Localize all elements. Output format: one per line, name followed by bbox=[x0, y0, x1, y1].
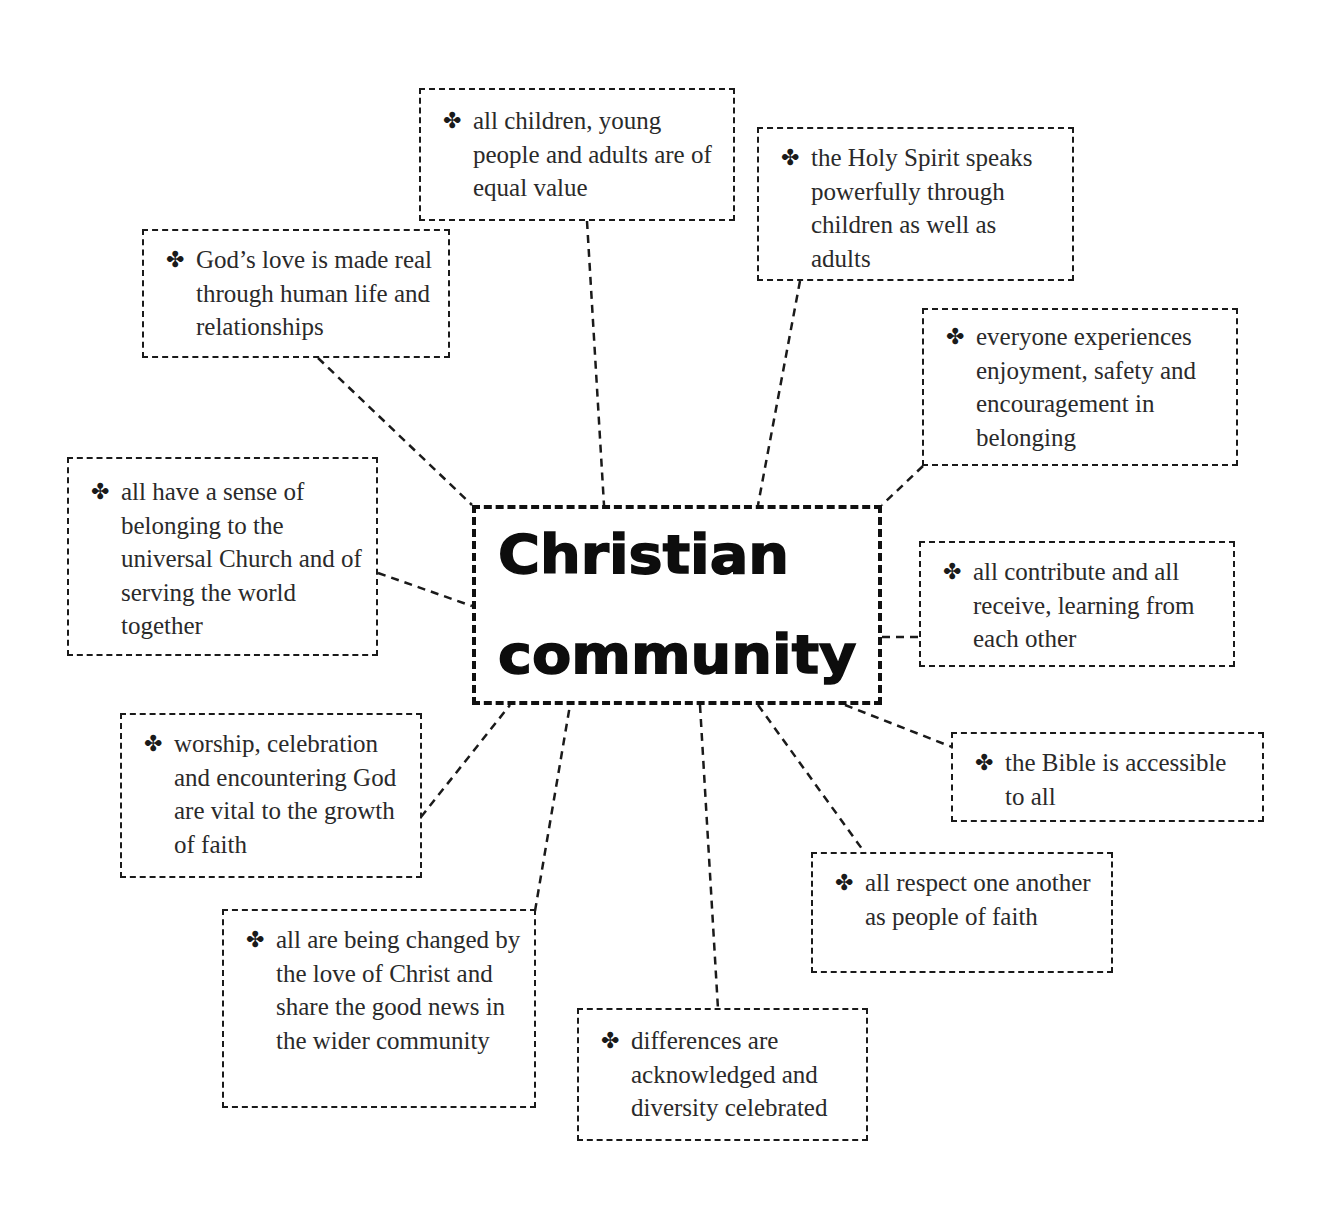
node-gods-love: ✤ God’s love is made real through human … bbox=[142, 229, 450, 358]
connector-bible bbox=[845, 705, 952, 747]
central-topic-line1: Christian bbox=[498, 505, 901, 605]
node-text: all contribute and all receive, learning… bbox=[973, 555, 1223, 656]
connector-equal-value bbox=[587, 221, 604, 505]
node-text: all children, young people and adults ar… bbox=[473, 104, 723, 205]
node-universal-church: ✤ all have a sense of belonging to the u… bbox=[67, 457, 378, 656]
clover-bullet-icon: ✤ bbox=[946, 320, 976, 353]
central-topic: Christian community bbox=[472, 505, 882, 705]
node-text: God’s love is made real through human li… bbox=[196, 243, 438, 344]
node-holy-spirit: ✤ the Holy Spirit speaks powerfully thro… bbox=[757, 127, 1074, 281]
clover-bullet-icon: ✤ bbox=[144, 727, 174, 760]
clover-bullet-icon: ✤ bbox=[975, 746, 1005, 779]
node-bible: ✤ the Bible is accessible to all bbox=[951, 732, 1264, 822]
node-text: differences are acknowledged and diversi… bbox=[631, 1024, 856, 1125]
connector-enjoyment bbox=[882, 466, 923, 505]
node-enjoyment: ✤ everyone experiences enjoyment, safety… bbox=[922, 308, 1238, 466]
connector-differences bbox=[700, 705, 718, 1009]
node-worship: ✤ worship, celebration and encountering … bbox=[120, 713, 422, 878]
node-text: worship, celebration and encountering Go… bbox=[174, 727, 410, 861]
clover-bullet-icon: ✤ bbox=[443, 104, 473, 137]
node-text: the Bible is accessible to all bbox=[1005, 746, 1252, 813]
mind-map-diagram: Christian community ✤ God’s love is made… bbox=[0, 0, 1330, 1210]
connector-worship bbox=[421, 705, 510, 817]
node-text: all respect one another as people of fai… bbox=[865, 866, 1101, 933]
clover-bullet-icon: ✤ bbox=[835, 866, 865, 899]
node-respect: ✤ all respect one another as people of f… bbox=[811, 852, 1113, 973]
node-changed: ✤ all are being changed by the love of C… bbox=[222, 909, 536, 1108]
node-text: the Holy Spirit speaks powerfully throug… bbox=[811, 141, 1062, 275]
node-text: everyone experiences enjoyment, safety a… bbox=[976, 320, 1226, 454]
node-differences: ✤ differences are acknowledged and diver… bbox=[577, 1008, 868, 1141]
node-text: all have a sense of belonging to the uni… bbox=[121, 475, 366, 643]
clover-bullet-icon: ✤ bbox=[246, 923, 276, 956]
node-text: all are being changed by the love of Chr… bbox=[276, 923, 524, 1057]
connector-universal-church bbox=[378, 573, 472, 606]
connector-holy-spirit bbox=[758, 281, 800, 505]
connector-changed bbox=[535, 705, 570, 911]
central-topic-line2: community bbox=[498, 605, 901, 705]
node-equal-value: ✤ all children, young people and adults … bbox=[419, 88, 735, 221]
clover-bullet-icon: ✤ bbox=[943, 555, 973, 588]
clover-bullet-icon: ✤ bbox=[166, 243, 196, 276]
clover-bullet-icon: ✤ bbox=[781, 141, 811, 174]
clover-bullet-icon: ✤ bbox=[91, 475, 121, 508]
clover-bullet-icon: ✤ bbox=[601, 1024, 631, 1057]
node-contribute: ✤ all contribute and all receive, learni… bbox=[919, 541, 1235, 667]
connector-respect bbox=[758, 705, 865, 853]
